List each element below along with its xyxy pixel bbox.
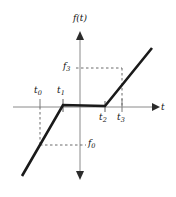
y-axis-label: f(t)	[73, 14, 87, 23]
tick-label-t1-sub: 1	[61, 89, 65, 97]
tick-label-t2: t2	[99, 113, 107, 122]
x-axis-label: t	[161, 103, 165, 112]
y-axis-arrow-up-icon	[76, 31, 84, 40]
y-axis-arrow-down-icon	[76, 171, 84, 180]
tick-label-f3: f3	[63, 62, 70, 71]
tick-label-t3: t3	[117, 113, 125, 122]
tick-label-f0-sub: 0	[91, 142, 95, 150]
tick-label-t0-sub: 0	[38, 89, 42, 97]
x-axis-arrow-icon	[152, 103, 160, 111]
tick-label-t0: t0	[34, 86, 42, 95]
tick-label-t3-sub: 3	[121, 116, 125, 124]
function-plot-figure: f(t) t t0 t1 t2 t3 f3 f0	[0, 0, 176, 197]
tick-label-f3-sub: 3	[66, 65, 70, 73]
plot-canvas	[0, 0, 176, 197]
tick-label-t2-sub: 2	[103, 116, 107, 124]
tick-label-f0: f0	[88, 139, 95, 148]
function-curve	[22, 48, 152, 176]
tick-label-t1: t1	[57, 86, 65, 95]
